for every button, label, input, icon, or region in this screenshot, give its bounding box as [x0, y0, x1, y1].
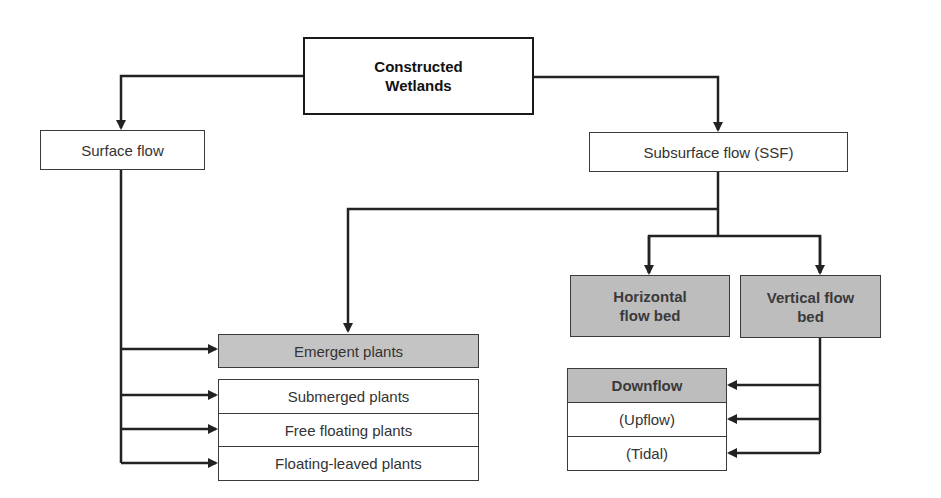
tidal-node: (Tidal)	[567, 436, 727, 471]
horizontal-flow-bed-node: Horizontal flow bed	[570, 275, 730, 337]
submerged-plants-node: Submerged plants	[218, 379, 479, 414]
tidal-label: (Tidal)	[626, 444, 668, 463]
vertical-flow-bed-node: Vertical flow bed	[740, 275, 881, 338]
surface-flow-node: Surface flow	[40, 130, 205, 170]
constructed-wetlands-node: Constructed Wetlands	[303, 37, 534, 115]
root-label-line2: Wetlands	[385, 76, 451, 95]
vertical-line1: Vertical flow	[767, 288, 855, 307]
horizontal-line1: Horizontal	[613, 287, 686, 306]
emergent-plants-label: Emergent plants	[294, 342, 403, 361]
vertical-line2: bed	[797, 307, 824, 326]
root-label-line1: Constructed	[374, 57, 462, 76]
submerged-plants-label: Submerged plants	[288, 387, 410, 406]
floating-leaved-plants-label: Floating-leaved plants	[275, 454, 422, 473]
subsurface-flow-node: Subsurface flow (SSF)	[589, 132, 848, 172]
upflow-node: (Upflow)	[567, 402, 727, 437]
downflow-label: Downflow	[612, 376, 683, 395]
floating-leaved-plants-node: Floating-leaved plants	[218, 446, 479, 481]
emergent-plants-node: Emergent plants	[218, 334, 479, 368]
horizontal-line2: flow bed	[620, 306, 681, 325]
surface-flow-label: Surface flow	[81, 141, 164, 160]
free-floating-plants-node: Free floating plants	[218, 413, 479, 447]
downflow-node: Downflow	[567, 368, 727, 403]
free-floating-plants-label: Free floating plants	[285, 421, 413, 440]
subsurface-flow-label: Subsurface flow (SSF)	[643, 143, 793, 162]
upflow-label: (Upflow)	[619, 410, 675, 429]
